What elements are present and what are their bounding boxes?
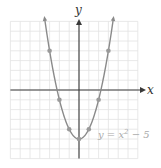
parabola-graph: x y y = x2 − 5 — [0, 0, 161, 168]
data-point — [96, 98, 101, 103]
x-axis-arrow-icon — [140, 87, 146, 93]
data-point — [77, 137, 82, 142]
data-point — [57, 98, 62, 103]
data-point — [47, 49, 52, 54]
curve-arrow-icon — [43, 16, 47, 21]
equation-label: y = x2 − 5 — [97, 128, 150, 140]
y-axis-arrow-icon — [76, 19, 82, 25]
equation-tail: − 5 — [129, 129, 150, 140]
curve-arrow-icon — [111, 16, 115, 21]
data-point — [106, 49, 111, 54]
equation-base: y = x — [97, 129, 124, 140]
data-point — [67, 127, 72, 132]
y-axis-label: y — [74, 3, 82, 17]
x-axis-label: x — [147, 83, 154, 97]
data-point — [87, 127, 92, 132]
